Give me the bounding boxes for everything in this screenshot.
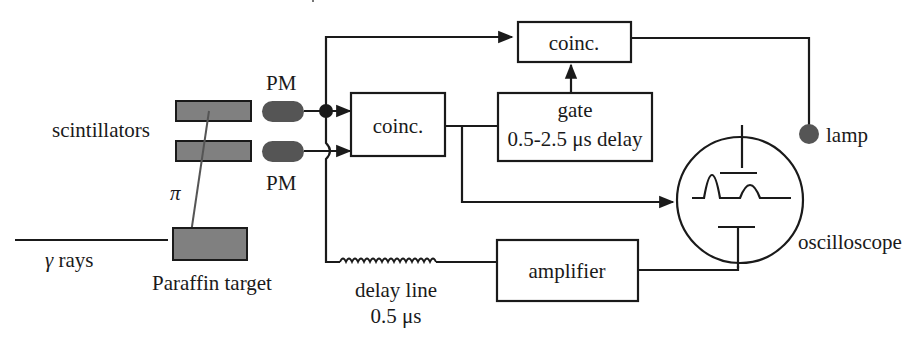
coinc-box-main: coinc. xyxy=(351,93,445,156)
gate-label-line2: 0.5-2.5 μs delay xyxy=(508,127,643,151)
gate-label-line1: gate xyxy=(558,98,593,122)
amplifier-label: amplifier xyxy=(529,259,606,283)
gamma-rays-label: γ rays xyxy=(45,248,94,272)
delay-line-coil xyxy=(340,259,496,263)
coinc-main-label: coinc. xyxy=(373,114,424,138)
scintillators-label: scintillators xyxy=(52,118,150,142)
oscilloscope-label: oscilloscope xyxy=(798,230,902,254)
lamp-label: lamp xyxy=(826,123,868,147)
delay-line-label-line1: delay line xyxy=(355,278,437,302)
scintillator-bottom xyxy=(176,141,251,161)
pm-top-label: PM xyxy=(266,71,297,95)
pion-label: π xyxy=(170,181,181,205)
coinc-box-top: coinc. xyxy=(518,22,631,62)
amplifier-box: amplifier xyxy=(497,240,638,301)
scintillator-top xyxy=(176,101,251,121)
amplifier-to-oscilloscope-wire xyxy=(638,266,738,270)
lamp xyxy=(799,124,819,144)
pm-bottom-label: PM xyxy=(266,171,297,195)
gate-box: gate 0.5-2.5 μs delay xyxy=(498,93,652,161)
delay-line-label-line2: 0.5 μs xyxy=(371,304,422,328)
experiment-diagram: scintillators π Paraffin target γ rays P… xyxy=(0,0,923,341)
paraffin-target xyxy=(173,228,247,260)
pm-top xyxy=(262,101,304,122)
pion-track xyxy=(190,111,209,240)
coinc-top-label: coinc. xyxy=(549,31,600,55)
pm-bottom xyxy=(262,141,304,162)
top-fragment xyxy=(312,0,314,2)
oscilloscope xyxy=(677,125,803,268)
paraffin-target-label: Paraffin target xyxy=(152,271,272,295)
